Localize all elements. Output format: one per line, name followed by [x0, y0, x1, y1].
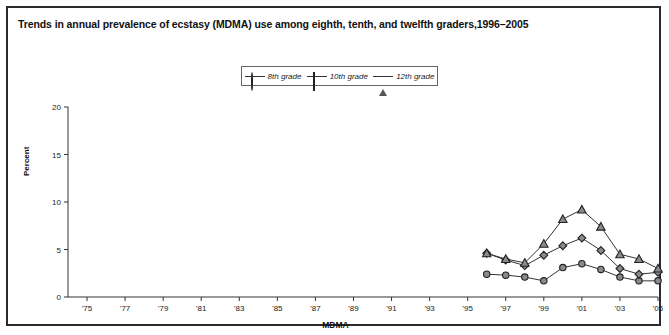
x-tick-label: '99	[539, 304, 550, 313]
data-point	[655, 278, 661, 284]
data-point	[579, 261, 585, 267]
x-tick-label: '93	[424, 304, 435, 313]
x-tick-label: '77	[120, 304, 131, 313]
data-point	[559, 242, 567, 250]
x-tick-label: '91	[386, 304, 397, 313]
plot-area: 05101520'75'77'79'81'83'85'87'89'91'93'9…	[8, 8, 663, 328]
data-point	[598, 266, 604, 272]
data-point	[560, 264, 566, 270]
x-tick-label: '79	[158, 304, 169, 313]
data-point	[522, 274, 528, 280]
data-point	[654, 264, 662, 272]
y-tick-label: 5	[57, 246, 62, 255]
y-tick-label: 10	[52, 198, 61, 207]
x-tick-label: '03	[615, 304, 626, 313]
series-8th-grade	[484, 261, 662, 285]
figure-panel: Trends in annual prevalence of ecstasy (…	[6, 6, 661, 326]
data-point	[503, 272, 509, 278]
data-point	[635, 270, 643, 278]
x-tick-label: '75	[82, 304, 93, 313]
y-tick-label: 0	[57, 293, 62, 302]
data-point	[541, 278, 547, 284]
data-point	[617, 274, 623, 280]
series-line	[487, 238, 658, 274]
x-tick-label: '87	[310, 304, 321, 313]
x-tick-label: '85	[272, 304, 283, 313]
x-tick-label: '05	[653, 304, 663, 313]
y-tick-label: 20	[52, 103, 61, 112]
x-tick-label: '81	[196, 304, 207, 313]
data-point	[616, 250, 624, 258]
series-line	[487, 210, 658, 269]
series-10th-grade	[483, 234, 662, 278]
x-tick-label: '83	[234, 304, 245, 313]
x-tick-label: '97	[501, 304, 512, 313]
y-tick-label: 15	[52, 151, 61, 160]
x-tick-label: '89	[348, 304, 359, 313]
x-tick-label: '01	[577, 304, 588, 313]
x-tick-label: '95	[462, 304, 473, 313]
plot-svg: 05101520'75'77'79'81'83'85'87'89'91'93'9…	[8, 8, 663, 328]
data-point	[578, 234, 586, 242]
data-point	[484, 271, 490, 277]
data-point	[559, 215, 567, 223]
series-12th-grade	[483, 205, 663, 272]
data-point	[540, 251, 548, 259]
data-point	[578, 205, 586, 213]
